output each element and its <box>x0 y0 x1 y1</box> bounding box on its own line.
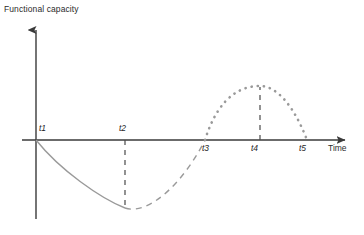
curve-segment-recovery <box>125 140 205 209</box>
curve-segment-decline <box>36 140 125 208</box>
x-tick-label-t4: t4 <box>251 143 258 153</box>
x-axis-label: Time <box>328 143 347 153</box>
curve-segment-improvement <box>205 86 307 140</box>
x-tick-label-t5: t5 <box>299 143 306 153</box>
x-tick-label-t3: t3 <box>202 143 209 153</box>
functional-capacity-chart: Functional capacity t1 t2 t3 t4 t5 Time <box>0 0 364 235</box>
x-tick-label-t1: t1 <box>39 123 46 133</box>
chart-canvas <box>0 0 364 235</box>
x-tick-label-t2: t2 <box>119 123 126 133</box>
